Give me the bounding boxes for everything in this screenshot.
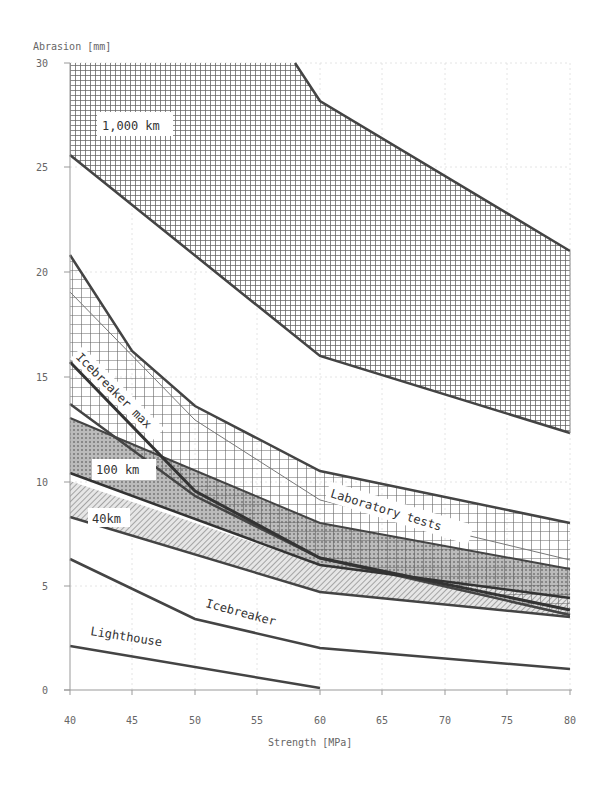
lighthouse-line <box>70 646 320 688</box>
y-tick-25: 25 <box>36 162 48 173</box>
y-tick-15: 15 <box>36 372 48 383</box>
x-tick-50: 50 <box>189 715 201 726</box>
x-tick-80: 80 <box>564 715 576 726</box>
x-axis-title: Strength [MPa] <box>268 737 352 748</box>
y-tick-20: 20 <box>36 267 48 278</box>
y-axis-ticks <box>64 63 70 690</box>
abrasion-chart: Abrasion [mm] Strength [MPa] 0 5 10 15 2… <box>0 0 606 786</box>
x-tick-45: 45 <box>126 715 138 726</box>
x-tick-75: 75 <box>501 715 513 726</box>
x-tick-40: 40 <box>64 715 76 726</box>
y-tick-labels: 0 5 10 15 20 25 30 <box>36 58 48 696</box>
x-tick-60: 60 <box>314 715 326 726</box>
label-lighthouse: Lighthouse <box>90 624 164 649</box>
x-tick-labels: 40 45 50 55 60 65 70 75 80 <box>64 715 576 726</box>
y-tick-10: 10 <box>36 477 48 488</box>
y-axis-title: Abrasion [mm] <box>33 41 111 52</box>
y-tick-0: 0 <box>42 685 48 696</box>
x-tick-65: 65 <box>376 715 388 726</box>
y-tick-30: 30 <box>36 58 48 69</box>
x-tick-70: 70 <box>439 715 451 726</box>
label-100km: 100 km <box>96 463 139 477</box>
x-axis-ticks <box>70 690 570 695</box>
label-40km: 40km <box>92 512 121 526</box>
y-tick-5: 5 <box>42 581 48 592</box>
label-1000km: 1,000 km <box>102 119 160 133</box>
x-tick-55: 55 <box>251 715 263 726</box>
